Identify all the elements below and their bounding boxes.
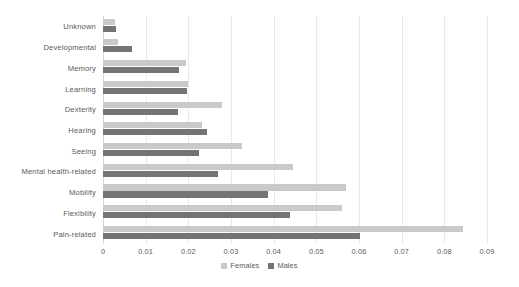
x-tick-label: 0.02 — [181, 247, 196, 256]
legend-swatch-icon — [221, 263, 227, 269]
bar-males-unknown — [103, 26, 116, 32]
bar-females-hearing — [103, 122, 202, 128]
bar-row: Developmental — [103, 37, 487, 58]
x-tick-label: 0.07 — [394, 247, 409, 256]
bar-males-memory — [103, 67, 179, 73]
gridline — [487, 16, 488, 244]
bar-males-seeing — [103, 150, 199, 156]
bar-males-flexibility — [103, 212, 290, 218]
plot-area: UnknownDevelopmentalMemoryLearningDexter… — [103, 16, 487, 244]
x-tick-label: 0.09 — [480, 247, 495, 256]
category-label: Hearing — [68, 125, 96, 134]
bar-males-mental-health-related — [103, 171, 218, 177]
bar-row: Mobility — [103, 182, 487, 203]
bar-chart: UnknownDevelopmentalMemoryLearningDexter… — [0, 0, 519, 287]
chart-legend: FemalesMales — [0, 261, 519, 270]
x-tick-label: 0 — [101, 247, 105, 256]
bar-females-mobility — [103, 184, 346, 190]
bar-females-mental-health-related — [103, 164, 293, 170]
bar-females-flexibility — [103, 205, 342, 211]
x-tick-label: 0.01 — [138, 247, 153, 256]
category-label: Mental health-related — [22, 167, 97, 176]
bar-males-dexterity — [103, 109, 178, 115]
legend-label: Males — [277, 261, 297, 270]
category-label: Memory — [68, 63, 96, 72]
bar-females-seeing — [103, 143, 242, 149]
bar-males-developmental — [103, 46, 132, 52]
bar-females-learning — [103, 81, 188, 87]
x-tick-label: 0.04 — [266, 247, 281, 256]
category-label: Unknown — [63, 22, 96, 31]
category-label: Developmental — [43, 43, 96, 52]
bar-row: Learning — [103, 78, 487, 99]
bar-row: Pain-related — [103, 223, 487, 244]
x-tick-label: 0.06 — [352, 247, 367, 256]
x-tick-label: 0.03 — [224, 247, 239, 256]
x-axis: 00.010.020.030.040.050.060.070.080.09 — [103, 244, 487, 260]
bar-males-mobility — [103, 191, 268, 197]
x-tick-label: 0.08 — [437, 247, 452, 256]
bar-females-pain-related — [103, 226, 463, 232]
legend-item-males[interactable]: Males — [268, 261, 297, 270]
bar-males-hearing — [103, 129, 207, 135]
bar-females-dexterity — [103, 102, 222, 108]
category-label: Dexterity — [65, 105, 96, 114]
bar-females-unknown — [103, 19, 115, 25]
bar-females-developmental — [103, 39, 118, 45]
bar-row: Unknown — [103, 16, 487, 37]
legend-item-females[interactable]: Females — [221, 261, 259, 270]
bar-row: Mental health-related — [103, 161, 487, 182]
bar-females-memory — [103, 60, 186, 66]
bar-males-learning — [103, 88, 187, 94]
category-label: Mobility — [69, 188, 96, 197]
x-tick-label: 0.05 — [309, 247, 324, 256]
category-label: Seeing — [71, 146, 96, 155]
bar-rows: UnknownDevelopmentalMemoryLearningDexter… — [103, 16, 487, 244]
category-label: Pain-related — [53, 229, 96, 238]
bar-row: Hearing — [103, 120, 487, 141]
legend-label: Females — [230, 261, 259, 270]
bar-row: Seeing — [103, 140, 487, 161]
legend-swatch-icon — [268, 263, 274, 269]
bar-row: Flexibility — [103, 203, 487, 224]
bar-row: Dexterity — [103, 99, 487, 120]
bar-row: Memory — [103, 57, 487, 78]
bar-males-pain-related — [103, 233, 360, 239]
category-label: Flexibility — [63, 208, 96, 217]
category-label: Learning — [65, 84, 96, 93]
